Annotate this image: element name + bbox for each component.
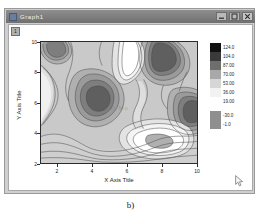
minimize-button[interactable]	[216, 12, 227, 21]
y-tick-label-2: 2	[25, 161, 37, 167]
maximize-icon	[231, 13, 238, 20]
x-tick-label-2: 2	[56, 168, 59, 174]
x-tickmark-2	[57, 164, 58, 167]
legend-swatch	[210, 97, 221, 106]
minimize-icon	[218, 13, 225, 20]
legend-entry: 36.00	[210, 88, 250, 97]
legend-entry: -30.0	[210, 111, 250, 120]
legend-swatch	[210, 88, 221, 97]
legend-entry: 70.00	[210, 70, 250, 79]
close-icon	[244, 13, 251, 20]
legend-label: 87.00	[223, 63, 234, 68]
legend-entry: 87.00	[210, 61, 250, 70]
legend-entry: 124.0	[210, 43, 250, 52]
legend-swatch	[210, 79, 221, 88]
y-tick-label-10: 10	[23, 39, 37, 45]
legend-swatch	[210, 111, 221, 120]
legend-label: 19.00	[223, 99, 234, 104]
legend-label: -1.0	[223, 122, 231, 127]
legend-label: 53.00	[223, 81, 234, 86]
y-axis-title: Y Axis Title	[16, 75, 22, 135]
legend-label: -30.0	[223, 113, 233, 118]
plot-watermark: al Mo	[41, 105, 197, 111]
contour-plot-area[interactable]: al Mo	[40, 41, 198, 164]
x-tick-label-4: 4	[91, 168, 94, 174]
y-tick-label-6: 6	[25, 100, 37, 106]
legend-entry: 53.00	[210, 79, 250, 88]
legend-label: 36.00	[223, 90, 234, 95]
contour-colorbar[interactable]: 124.0 104.0 87.00 70.00 53.00 36.00	[210, 43, 250, 139]
legend-label: 70.00	[223, 72, 234, 77]
x-tickmark-4	[92, 164, 93, 167]
y-tickmark-2	[37, 164, 40, 165]
legend-swatch	[210, 61, 221, 70]
legend-entry: 104.0	[210, 52, 250, 61]
y-tick-label-8: 8	[25, 69, 37, 75]
graph-window: Graph1 1 Y Axis Title 2 4 6 8 10	[4, 8, 255, 194]
figure-caption: b)	[0, 200, 261, 210]
legend-swatch	[210, 120, 221, 129]
x-tickmark-6	[127, 164, 128, 167]
x-tick-label-6: 6	[126, 168, 129, 174]
window-title-bar[interactable]: Graph1	[6, 10, 255, 23]
contour-plot-svg	[41, 42, 197, 163]
mouse-cursor	[235, 175, 244, 187]
graph-client-area[interactable]: 1 Y Axis Title 2 4 6 8 10	[8, 24, 253, 191]
maximize-button[interactable]	[229, 12, 240, 21]
x-tick-label-8: 8	[161, 168, 164, 174]
legend-swatch	[210, 70, 221, 79]
legend-swatch	[210, 52, 221, 61]
x-tick-label-10: 10	[194, 168, 200, 174]
layer-button-1[interactable]: 1	[11, 27, 20, 36]
legend-swatch	[210, 43, 221, 52]
x-tickmark-8	[162, 164, 163, 167]
legend-entry: -1.0	[210, 120, 250, 129]
graph-window-icon	[9, 13, 17, 21]
x-axis-title: X Axis Title	[40, 177, 198, 183]
legend-label: 104.0	[223, 54, 234, 59]
close-button[interactable]	[242, 12, 253, 21]
legend-label: 124.0	[223, 45, 234, 50]
y-tick-label-4: 4	[25, 130, 37, 136]
window-title: Graph1	[20, 14, 216, 20]
x-tickmark-10	[197, 164, 198, 167]
legend-entry: 19.00	[210, 97, 250, 106]
